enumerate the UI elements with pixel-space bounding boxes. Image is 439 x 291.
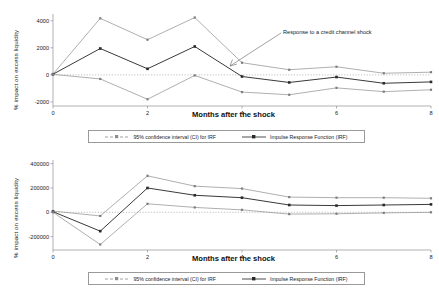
data-point-marker: [430, 197, 432, 199]
data-point-marker: [146, 98, 148, 100]
data-point-marker: [241, 75, 244, 78]
data-point-marker: [430, 211, 432, 213]
annotation-credit-channel-shock: Response to a credit channel shock: [283, 29, 372, 35]
data-point-marker: [194, 206, 196, 208]
y-tick-label: 400000: [30, 161, 49, 167]
data-point-marker: [288, 81, 291, 84]
legend-label-ci-bottom: 95% confidence interval (CI) for IRF: [133, 276, 215, 282]
legend-entry-ci-top: 95% confidence interval (CI) for IRF: [105, 133, 215, 141]
data-point-marker: [288, 94, 290, 96]
legend-swatch-ci-icon: [105, 275, 129, 283]
data-point-marker: [382, 82, 385, 85]
data-point-marker: [288, 69, 290, 71]
legend-top: 95% confidence interval (CI) for IRF Imp…: [88, 130, 365, 143]
legend-entry-ci-bottom: 95% confidence interval (CI) for IRF: [105, 275, 215, 283]
figure-container: % impact on excess liquidity -2000020004…: [0, 0, 439, 291]
data-point-marker: [193, 194, 196, 197]
data-point-marker: [99, 215, 101, 217]
x-axis-label-bottom: Months after the shock: [14, 254, 439, 263]
data-point-marker: [430, 81, 433, 84]
data-point-marker: [383, 197, 385, 199]
x-axis-label-top: Months after the shock: [14, 110, 439, 119]
data-point-marker: [335, 87, 337, 89]
data-point-marker: [241, 62, 243, 64]
data-point-marker: [383, 212, 385, 214]
y-tick-label: 200000: [30, 185, 49, 191]
data-point-marker: [241, 209, 243, 211]
data-point-marker: [194, 185, 196, 187]
data-point-marker: [241, 91, 243, 93]
data-point-marker: [146, 175, 148, 177]
data-point-marker: [430, 89, 432, 91]
data-point-marker: [288, 204, 291, 207]
data-point-marker: [288, 213, 290, 215]
legend-swatch-irf-icon: [242, 133, 266, 141]
data-point-marker: [146, 67, 149, 70]
data-point-marker: [99, 78, 101, 80]
data-point-marker: [430, 203, 433, 206]
data-point-marker: [146, 187, 149, 190]
data-point-marker: [335, 76, 338, 79]
data-point-marker: [194, 74, 196, 76]
data-point-marker: [99, 47, 102, 50]
data-point-marker: [383, 91, 385, 93]
annotation-leader-line: [230, 33, 281, 66]
data-point-marker: [335, 204, 338, 207]
data-point-marker: [335, 66, 337, 68]
legend-entry-irf-bottom: Impulse Response Function (IRF): [242, 275, 348, 283]
legend-label-ci-top: 95% confidence interval (CI) for IRF: [133, 134, 215, 140]
data-point-marker: [146, 39, 148, 41]
y-tick-label: 0: [46, 72, 49, 78]
legend-swatch-irf-icon: [242, 275, 266, 283]
data-point-marker: [335, 197, 337, 199]
data-point-marker: [194, 16, 196, 18]
chart-panel-bottom: % impact on excess liquidity -2000000200…: [0, 146, 439, 291]
data-point-marker: [99, 243, 101, 245]
data-point-marker: [241, 187, 243, 189]
series-line-ci_lower: [53, 74, 431, 99]
data-point-marker: [288, 196, 290, 198]
plot-area-top: -200002000400002468: [0, 0, 439, 128]
legend-swatch-ci-icon: [105, 133, 129, 141]
y-tick-label: 2000: [37, 45, 49, 51]
y-tick-label: -200000: [28, 234, 49, 240]
legend-entry-irf-top: Impulse Response Function (IRF): [242, 133, 348, 141]
data-point-marker: [99, 17, 101, 19]
series-line-ci_upper: [53, 18, 431, 75]
legend-label-irf-bottom: Impulse Response Function (IRF): [270, 276, 348, 282]
data-point-marker: [99, 230, 102, 233]
data-point-marker: [335, 213, 337, 215]
legend-label-irf-top: Impulse Response Function (IRF): [270, 134, 348, 140]
y-tick-label: 4000: [37, 18, 49, 24]
data-point-marker: [146, 203, 148, 205]
data-point-marker: [383, 72, 385, 74]
chart-panel-top: % impact on excess liquidity -2000020004…: [0, 0, 439, 148]
data-point-marker: [241, 196, 244, 199]
data-point-marker: [382, 204, 385, 207]
y-tick-label: 0: [46, 209, 49, 215]
data-point-marker: [430, 71, 432, 73]
data-point-marker: [52, 73, 54, 75]
y-tick-label: -2000: [35, 99, 49, 105]
data-point-marker: [193, 45, 196, 48]
legend-bottom: 95% confidence interval (CI) for IRF Imp…: [88, 272, 365, 285]
data-point-marker: [52, 211, 54, 213]
